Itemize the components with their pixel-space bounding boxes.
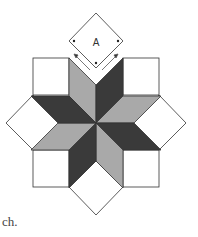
- caption-fragment: ch.: [2, 214, 18, 230]
- template-label: A: [93, 37, 100, 48]
- corner-square-bottom-left: [33, 150, 69, 187]
- corner-square-top-right: [123, 58, 159, 95]
- corner-square-top-left: [33, 58, 69, 95]
- corner-square-bottom-right: [123, 150, 159, 187]
- star-quilt-diagram: A: [0, 0, 198, 237]
